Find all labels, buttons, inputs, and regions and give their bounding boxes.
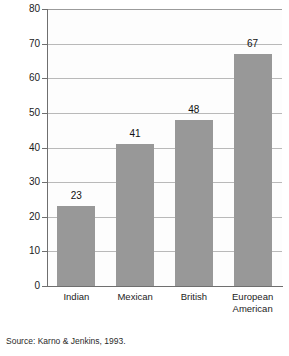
y-tick-mark-70 bbox=[42, 44, 47, 45]
gridline-80 bbox=[47, 9, 282, 10]
bar bbox=[116, 144, 154, 286]
x-axis-category-label: European American bbox=[213, 291, 289, 314]
bar bbox=[175, 120, 213, 286]
y-tick-mark-40 bbox=[42, 148, 47, 149]
source-note: Source: Karno & Jenkins, 1993. bbox=[6, 336, 126, 346]
y-tick-mark-20 bbox=[42, 217, 47, 218]
bar bbox=[57, 206, 95, 286]
y-tick-label-0: 0 bbox=[34, 281, 40, 291]
y-tick-mark-60 bbox=[42, 78, 47, 79]
bar-value-label: 48 bbox=[169, 105, 219, 115]
bar-value-label: 67 bbox=[228, 39, 278, 49]
y-tick-label-50: 50 bbox=[29, 108, 40, 118]
bar-value-label: 41 bbox=[110, 129, 160, 139]
y-tick-mark-50 bbox=[42, 113, 47, 114]
y-tick-mark-10 bbox=[42, 251, 47, 252]
y-tick-label-60: 60 bbox=[29, 73, 40, 83]
y-tick-label-20: 20 bbox=[29, 212, 40, 222]
bar-chart-figure: Percent of families with high expressed … bbox=[0, 0, 289, 356]
y-tick-mark-80 bbox=[42, 9, 47, 10]
y-tick-mark-0 bbox=[42, 286, 47, 287]
plot-area bbox=[47, 9, 282, 286]
y-tick-label-10: 10 bbox=[29, 246, 40, 256]
y-tick-label-30: 30 bbox=[29, 177, 40, 187]
y-axis-line bbox=[47, 9, 48, 287]
x-axis-line bbox=[47, 286, 283, 287]
y-tick-mark-30 bbox=[42, 182, 47, 183]
bar-value-label: 23 bbox=[51, 191, 101, 201]
bar bbox=[234, 54, 272, 286]
y-tick-label-40: 40 bbox=[29, 143, 40, 153]
y-tick-label-70: 70 bbox=[29, 39, 40, 49]
y-tick-label-80: 80 bbox=[29, 4, 40, 14]
